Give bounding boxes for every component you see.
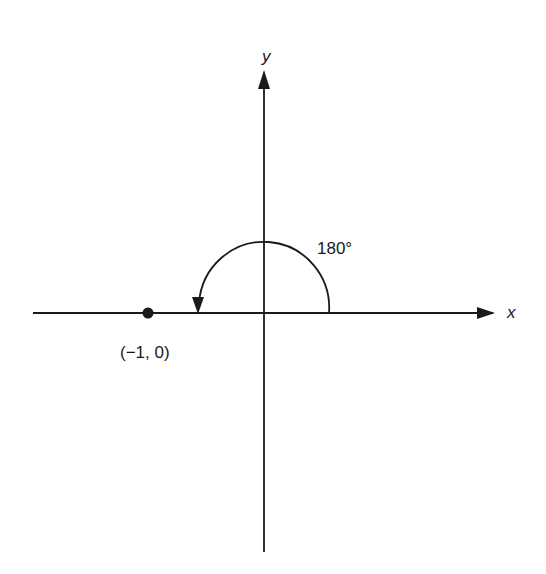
x-axis-label: x: [506, 303, 516, 322]
coordinate-plane-diagram: y x 180° (−1, 0): [0, 0, 546, 574]
y-axis: [258, 70, 270, 552]
y-axis-label: y: [261, 47, 272, 66]
point-label: (−1, 0): [120, 343, 170, 362]
y-axis-arrow-icon: [258, 70, 270, 89]
point-marker: [143, 308, 154, 319]
angle-label: 180°: [317, 239, 352, 258]
arc-arrow-icon: [192, 297, 204, 314]
rotation-arc: [192, 242, 329, 314]
x-axis-arrow-icon: [477, 307, 495, 319]
